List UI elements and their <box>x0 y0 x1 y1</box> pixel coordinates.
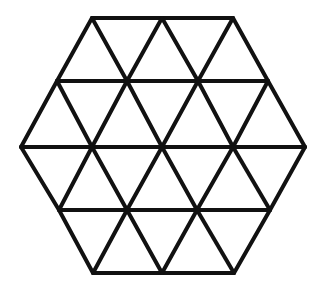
edge <box>198 81 233 147</box>
edge <box>57 81 92 147</box>
edge <box>127 18 162 81</box>
edge <box>162 147 197 210</box>
edge <box>127 210 162 273</box>
edge <box>127 81 162 147</box>
edge <box>92 81 127 147</box>
edge <box>92 18 127 81</box>
edge <box>197 147 233 210</box>
edge <box>162 210 197 273</box>
edge <box>162 18 198 81</box>
edge <box>234 210 270 273</box>
edge <box>198 18 233 81</box>
edge <box>162 81 198 147</box>
edge <box>57 18 92 81</box>
edge <box>59 147 92 210</box>
edge <box>197 210 234 273</box>
edge <box>233 18 268 81</box>
edge <box>92 147 127 210</box>
edge <box>270 147 305 210</box>
hexagon-diagram: triangular-grid-hexagon <box>0 0 323 297</box>
edge <box>233 81 268 147</box>
edge <box>233 147 270 210</box>
triangle-grid <box>0 0 323 297</box>
edge <box>93 210 127 273</box>
edge <box>268 81 305 147</box>
edge <box>127 147 162 210</box>
edge <box>21 147 59 210</box>
edge <box>21 81 57 147</box>
edge <box>59 210 93 273</box>
